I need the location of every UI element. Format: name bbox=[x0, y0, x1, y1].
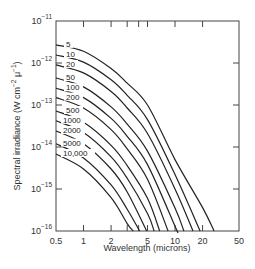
curve-label: 2000 bbox=[63, 126, 81, 135]
y-tick-label: 10−12 bbox=[31, 55, 52, 68]
x-tick-label: 50 bbox=[234, 236, 244, 246]
curve-label: 100 bbox=[66, 83, 80, 92]
y-tick-label: 10−15 bbox=[31, 181, 52, 194]
curve-label: 10,000 bbox=[63, 149, 88, 158]
curve-label: 5000 bbox=[63, 139, 81, 148]
curve-label: 500 bbox=[66, 106, 80, 115]
curve-label: 10 bbox=[66, 50, 75, 59]
x-axis-title: Wavelength (microns) bbox=[103, 243, 190, 253]
curves: 510205010020050010002000500010,000 bbox=[56, 40, 214, 233]
curve-label: 5 bbox=[66, 40, 71, 49]
y-tick-label: 10−13 bbox=[31, 97, 52, 110]
x-tick-label: 0.5 bbox=[50, 236, 63, 246]
x-tick-label: 1 bbox=[81, 236, 86, 246]
y-tick-label: 10−16 bbox=[31, 223, 52, 236]
y-tick-label: 10−14 bbox=[31, 139, 52, 152]
y-tick-label: 10−11 bbox=[31, 13, 52, 26]
y-axis-title: Spectral irradiance (W cm−2 μ−1) bbox=[10, 61, 22, 190]
x-tick-label: 20 bbox=[198, 236, 208, 246]
curve-label: 200 bbox=[66, 93, 80, 102]
curve-line bbox=[56, 154, 133, 231]
curve-label: 20 bbox=[66, 60, 75, 69]
curve-5: 5 bbox=[56, 40, 214, 231]
plot-area: 0.5125102050 10−1110−1210−1310−1410−1510… bbox=[31, 13, 244, 246]
curve-label: 50 bbox=[66, 73, 75, 82]
curve-10000: 10,000 bbox=[56, 149, 133, 231]
curve-label: 1000 bbox=[63, 116, 81, 125]
spectral-irradiance-chart: 0.5125102050 10−1110−1210−1310−1410−1510… bbox=[0, 0, 255, 269]
